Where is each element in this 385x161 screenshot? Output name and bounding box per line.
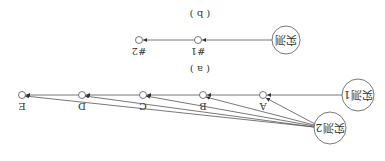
node-C [140, 92, 147, 99]
caption-a: ( a ) [190, 64, 210, 75]
node-label-B: B [199, 101, 206, 112]
node-E [19, 92, 26, 99]
edge-m2-A [266, 98, 315, 124]
node-label-A: A [259, 101, 268, 112]
node-A [260, 92, 267, 99]
diagram-a [19, 79, 375, 144]
node-2 [136, 37, 143, 44]
caption-b: ( b ) [190, 9, 211, 20]
node-label-D: D [78, 101, 86, 112]
rotated-figure-canvas: 实测1 实测2 A B C D E ( a ) 实测 #1 #2 ( b ) [0, 0, 385, 161]
node-1 [195, 37, 202, 44]
diagram-b-labels: 实测 #1 #2 ( b ) [132, 9, 297, 57]
node-B [200, 92, 207, 99]
diagram-a-labels: 实测1 实测2 A B C D E ( a ) [18, 64, 372, 135]
edge-m2-C [146, 96, 314, 126]
node-D [79, 92, 86, 99]
node-label-1: #1 [191, 46, 206, 57]
node-label-E: E [18, 101, 25, 112]
diagram-svg: 实测1 实测2 A B C D E ( a ) 实测 #1 #2 ( b ) [0, 0, 385, 161]
node-label-C: C [139, 101, 147, 112]
source-label-m2: 实测2 [316, 121, 345, 135]
figure: 实测1 实测2 A B C D E ( a ) 实测 #1 #2 ( b ) [0, 0, 385, 161]
node-label-2: #2 [132, 46, 147, 57]
source-label-m1: 实测1 [344, 88, 373, 102]
source-label-m: 实测 [275, 33, 297, 47]
